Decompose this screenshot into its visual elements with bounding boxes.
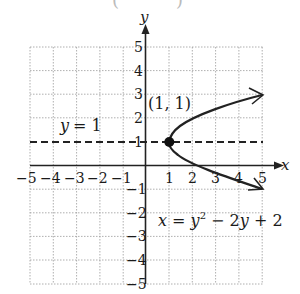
svg-text:−5: −5	[126, 276, 147, 292]
cropped-label-fragment: (	[112, 0, 119, 10]
svg-text:−3: −3	[126, 228, 147, 244]
svg-text:−4: −4	[126, 252, 147, 268]
cropped-label-fragment: )	[176, 0, 183, 10]
y-axis-label: y	[139, 8, 149, 26]
vertex-point	[164, 137, 174, 147]
x-axis-label: x	[281, 156, 290, 174]
svg-text:−5: −5	[16, 170, 37, 186]
svg-text:−4: −4	[40, 170, 61, 186]
svg-text:−2: −2	[126, 205, 147, 221]
svg-text:−1: −1	[126, 181, 147, 197]
curve-equation-label: x = y2 − 2y + 2	[158, 210, 283, 230]
vertex-label: (1, 1)	[148, 94, 191, 113]
svg-text:2: 2	[188, 170, 197, 186]
svg-text:3: 3	[134, 86, 143, 102]
svg-text:4: 4	[134, 63, 143, 79]
svg-text:5: 5	[134, 39, 143, 55]
svg-text:−3: −3	[64, 170, 85, 186]
axes	[30, 30, 278, 284]
coordinate-plane: ( ) x y −5 −4 −3 −2 −1	[0, 0, 300, 294]
svg-text:−2: −2	[87, 170, 108, 186]
svg-text:4: 4	[234, 170, 243, 186]
svg-text:2: 2	[134, 110, 143, 126]
axis-of-symmetry-label: y= 1	[59, 116, 102, 135]
svg-text:1: 1	[165, 170, 174, 186]
